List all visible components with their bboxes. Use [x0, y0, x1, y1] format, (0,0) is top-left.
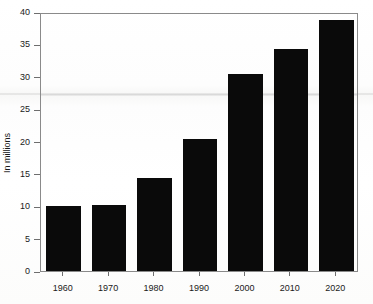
bar-2020: [319, 20, 354, 271]
bar-1970: [92, 205, 127, 271]
x-tick-1970: [108, 272, 109, 276]
y-tick-label-40: 40: [2, 8, 30, 17]
x-tick-label-2010: 2010: [267, 283, 313, 293]
bar-2010: [274, 49, 309, 271]
x-tick-label-2000: 2000: [221, 283, 267, 293]
x-tick-label-1970: 1970: [85, 283, 131, 293]
y-tick-label-15: 15: [2, 170, 30, 179]
y-tick-label-35: 35: [2, 40, 30, 49]
bar-1980: [137, 178, 172, 271]
y-tick-label-5: 5: [2, 235, 30, 244]
x-tick-2020: [335, 272, 336, 276]
bar-1960: [46, 206, 81, 271]
x-tick-1960: [62, 272, 63, 276]
bar-series: [41, 14, 357, 271]
y-tick-label-20: 20: [2, 138, 30, 147]
y-axis-title: In millions: [0, 108, 14, 198]
x-tick-1980: [153, 272, 154, 276]
x-tick-label-1960: 1960: [40, 283, 86, 293]
y-tick-label-10: 10: [2, 202, 30, 211]
x-tick-label-1980: 1980: [131, 283, 177, 293]
bar-1990: [183, 139, 218, 271]
bar-2000: [228, 74, 263, 271]
x-tick-2010: [289, 272, 290, 276]
x-tick-1990: [199, 272, 200, 276]
y-tick-label-30: 30: [2, 73, 30, 82]
y-tick-label-25: 25: [2, 105, 30, 114]
x-tick-label-2020: 2020: [312, 283, 358, 293]
bar-chart-figure: In millions 0510152025303540 19601970198…: [0, 0, 373, 304]
y-tick-label-0: 0: [2, 267, 30, 276]
x-tick-2000: [244, 272, 245, 276]
plot-area: [40, 13, 358, 272]
x-tick-label-1990: 1990: [176, 283, 222, 293]
